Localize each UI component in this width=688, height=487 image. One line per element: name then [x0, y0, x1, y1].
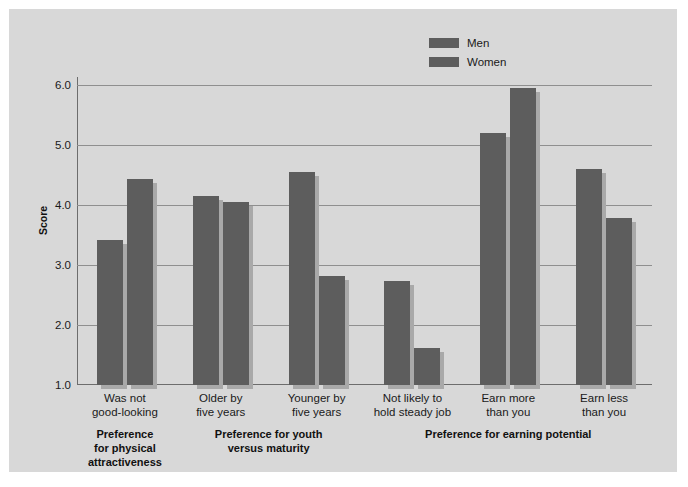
- gridline: [77, 325, 652, 326]
- category-label-line1: Earn less: [534, 391, 674, 405]
- bar-women-2: [319, 276, 345, 385]
- gridline: [77, 205, 652, 206]
- y-tick-label: 2.0: [55, 319, 71, 331]
- bar-men-3: [384, 281, 410, 385]
- bar-men-0: [97, 240, 123, 385]
- category-label-line2: than you: [534, 405, 674, 419]
- group-label-1: Preference for youthversus maturity: [149, 427, 389, 455]
- bar-front: [576, 169, 602, 385]
- bar-men-5: [576, 169, 602, 385]
- group-label-line1: Preference for earning potential: [388, 427, 628, 441]
- chart-figure: Men Women Score 6.05.04.03.02.01.0 Was n…: [9, 9, 677, 472]
- bar-men-1: [193, 196, 219, 385]
- gridline: [77, 85, 652, 86]
- bar-front: [414, 348, 440, 385]
- y-tick-label: 1.0: [55, 379, 71, 391]
- bar-men-4: [480, 133, 506, 385]
- chart-legend: Men Women: [429, 35, 549, 73]
- bar-front: [480, 133, 506, 385]
- group-label-2: Preference for earning potential: [388, 427, 628, 441]
- bar-front: [384, 281, 410, 385]
- bar-women-0: [127, 179, 153, 385]
- x-axis-line: [77, 384, 652, 385]
- bar-front: [97, 240, 123, 385]
- bar-front: [510, 88, 536, 385]
- y-axis-line: [77, 77, 78, 385]
- group-label-line3: attractiveness: [5, 455, 245, 469]
- legend-item-women: Women: [429, 54, 549, 69]
- y-tick-label: 5.0: [55, 139, 71, 151]
- group-label-line1: Preference for youth: [149, 427, 389, 441]
- y-axis-label: Score: [37, 206, 49, 235]
- bar-front: [606, 218, 632, 385]
- bar-men-2: [289, 172, 315, 385]
- y-tick-label: 6.0: [55, 79, 71, 91]
- legend-item-men: Men: [429, 35, 549, 50]
- bar-front: [127, 179, 153, 385]
- group-label-line2: versus maturity: [149, 441, 389, 455]
- legend-swatch-men: [429, 38, 459, 48]
- gridline: [77, 145, 652, 146]
- y-tick-label: 3.0: [55, 259, 71, 271]
- bar-front: [319, 276, 345, 385]
- bar-front: [223, 202, 249, 385]
- bar-women-1: [223, 202, 249, 385]
- legend-label-men: Men: [467, 37, 489, 49]
- y-tick-label: 4.0: [55, 199, 71, 211]
- legend-swatch-women: [429, 57, 459, 67]
- bar-front: [193, 196, 219, 385]
- bar-front: [289, 172, 315, 385]
- category-label-5: Earn lessthan you: [534, 391, 674, 419]
- legend-label-women: Women: [467, 56, 506, 68]
- plot-area: 6.05.04.03.02.01.0: [77, 85, 652, 385]
- gridline: [77, 265, 652, 266]
- bar-women-5: [606, 218, 632, 385]
- bar-women-3: [414, 348, 440, 385]
- bar-women-4: [510, 88, 536, 385]
